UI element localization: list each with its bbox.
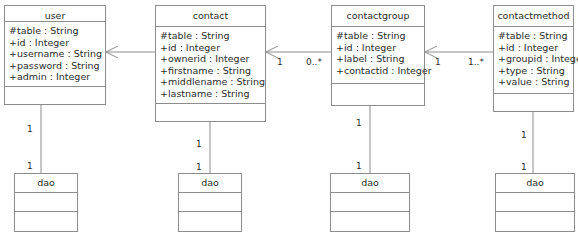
multiplicity-label: 1 bbox=[27, 161, 33, 171]
uml-attribute-compartment bbox=[331, 193, 409, 212]
uml-attribute: #table : String bbox=[9, 25, 101, 37]
multiplicity-label: 1 bbox=[277, 57, 283, 67]
uml-operation-compartment bbox=[331, 212, 409, 231]
multiplicity-label: 1 bbox=[521, 162, 527, 172]
uml-attribute-compartment: #table : String +id : Integer +ownerid :… bbox=[156, 27, 265, 104]
uml-class-name: dao bbox=[15, 174, 77, 193]
uml-attribute: +ownerid : Integer bbox=[160, 53, 261, 65]
uml-attribute: +id : Integer bbox=[498, 42, 569, 54]
uml-attribute: +id : Integer bbox=[160, 42, 261, 54]
uml-attribute: +username : String bbox=[9, 48, 101, 60]
uml-attribute: +id : Integer bbox=[336, 42, 420, 54]
uml-attribute: #table : String bbox=[498, 30, 569, 42]
uml-attribute: +value : String bbox=[498, 76, 569, 88]
uml-class-contactgroup[interactable]: contactgroup #table : String +id : Integ… bbox=[331, 5, 425, 106]
uml-attribute: +firstname : String bbox=[160, 65, 261, 77]
uml-operation-compartment bbox=[496, 212, 574, 231]
uml-attribute-compartment: #table : String +id : Integer +label : S… bbox=[332, 27, 424, 84]
uml-attribute: +label : String bbox=[336, 53, 420, 65]
uml-class-name: dao bbox=[179, 174, 241, 193]
uml-attribute-compartment: #table : String +id : Integer +groupid :… bbox=[494, 27, 573, 94]
uml-attribute: #table : String bbox=[336, 30, 420, 42]
multiplicity-label: 0..* bbox=[306, 57, 322, 67]
multiplicity-label: 1 bbox=[521, 130, 527, 140]
uml-class-dao-user[interactable]: dao bbox=[14, 173, 78, 232]
uml-class-dao-contact[interactable]: dao bbox=[178, 173, 242, 232]
uml-class-user[interactable]: user #table : String +id : Integer +user… bbox=[4, 5, 106, 105]
uml-operation-compartment bbox=[5, 87, 105, 104]
uml-operation-compartment bbox=[15, 212, 77, 231]
uml-operation-compartment bbox=[179, 212, 241, 231]
uml-attribute-compartment bbox=[15, 193, 77, 212]
uml-attribute: +password : String bbox=[9, 60, 101, 72]
uml-operation-compartment bbox=[332, 84, 424, 105]
uml-attribute: +admin : Integer bbox=[9, 71, 101, 83]
multiplicity-label: 1 bbox=[196, 139, 202, 149]
uml-class-name: user bbox=[5, 6, 105, 22]
uml-class-dao-contactmethod[interactable]: dao bbox=[495, 173, 575, 232]
uml-class-name: contact bbox=[156, 6, 265, 27]
uml-class-name: contactgroup bbox=[332, 6, 424, 27]
uml-attribute: +lastname : String bbox=[160, 88, 261, 100]
uml-operation-compartment bbox=[494, 94, 573, 111]
uml-class-contactmethod[interactable]: contactmethod #table : String +id : Inte… bbox=[493, 5, 574, 112]
uml-class-name: dao bbox=[496, 174, 574, 193]
multiplicity-label: 1 bbox=[196, 162, 202, 172]
uml-attribute-compartment bbox=[496, 193, 574, 212]
multiplicity-label: 1..* bbox=[468, 57, 484, 67]
uml-attribute: +middlename : String bbox=[160, 76, 261, 88]
uml-class-name: dao bbox=[331, 174, 409, 193]
multiplicity-label: 1 bbox=[356, 161, 362, 171]
uml-operation-compartment bbox=[156, 104, 265, 121]
multiplicity-label: 1 bbox=[435, 57, 441, 67]
uml-class-name: contactmethod bbox=[494, 6, 573, 27]
uml-attribute: +contactid : Integer bbox=[336, 65, 420, 77]
uml-attribute-compartment: #table : String +id : Integer +username … bbox=[5, 22, 105, 87]
uml-class-diagram-canvas: user #table : String +id : Integer +user… bbox=[0, 0, 578, 235]
uml-attribute: +id : Integer bbox=[9, 37, 101, 49]
uml-attribute: +groupid : Integer bbox=[498, 53, 569, 65]
uml-attribute: +type : String bbox=[498, 65, 569, 77]
multiplicity-label: 1 bbox=[27, 124, 33, 134]
multiplicity-label: 1 bbox=[356, 118, 362, 128]
edge-contact-to-user bbox=[106, 46, 155, 58]
uml-class-dao-contactgroup[interactable]: dao bbox=[330, 173, 410, 232]
uml-attribute: #table : String bbox=[160, 30, 261, 42]
uml-class-contact[interactable]: contact #table : String +id : Integer +o… bbox=[155, 5, 266, 122]
uml-attribute-compartment bbox=[179, 193, 241, 212]
